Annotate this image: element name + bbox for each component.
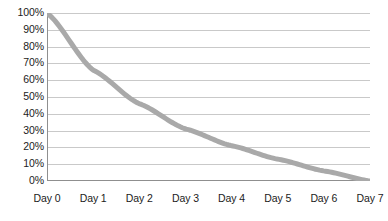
y-axis-tick-label: 50% <box>0 91 44 102</box>
y-axis-tick-label: 60% <box>0 74 44 85</box>
y-axis-tick-label: 30% <box>0 125 44 136</box>
y-axis-tick-label: 90% <box>0 24 44 35</box>
y-axis-tick-label: 80% <box>0 41 44 52</box>
plot-area <box>47 13 370 181</box>
y-axis-tick-labels: 100%90%80%70%60%50%40%30%20%10%0% <box>0 0 44 221</box>
x-axis-tick-label: Day 7 <box>340 192 388 204</box>
y-axis-tick-label: 0% <box>0 175 44 186</box>
x-axis-tick-labels: Day 0Day 1Day 2Day 3Day 4Day 5Day 6Day 7 <box>0 192 382 212</box>
gridlines <box>47 14 370 182</box>
y-axis-tick-label: 10% <box>0 158 44 169</box>
plot-svg <box>47 13 370 181</box>
y-axis-tick-label: 40% <box>0 108 44 119</box>
y-axis-tick-label: 20% <box>0 141 44 152</box>
y-axis-tick-label: 70% <box>0 57 44 68</box>
y-axis-tick-label: 100% <box>0 7 44 18</box>
